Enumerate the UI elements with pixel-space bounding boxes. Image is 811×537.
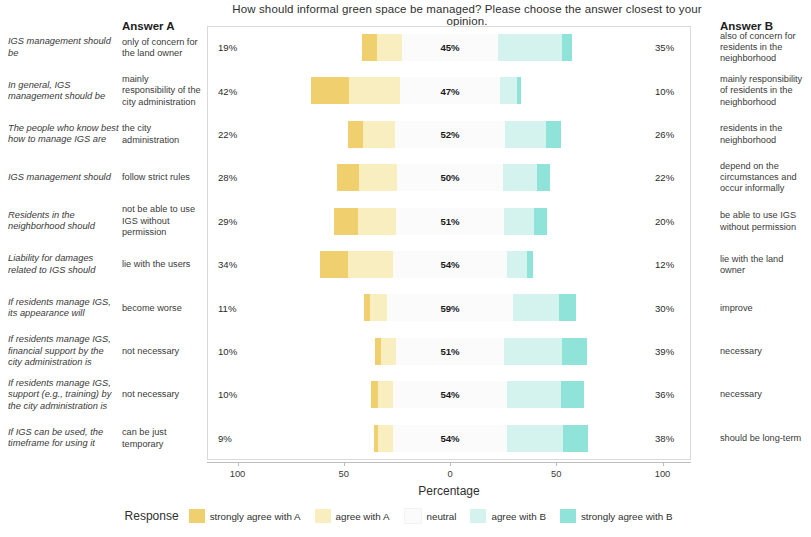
row-percent-neutral: 54% xyxy=(430,389,470,400)
chart-row: In general, IGS management should bemain… xyxy=(0,69,811,112)
legend-swatch-icon xyxy=(470,509,486,523)
row-answer-b: should be long-term xyxy=(720,433,810,444)
x-axis-tick-label: 0 xyxy=(430,468,470,479)
legend-item[interactable]: strongly agree with A xyxy=(189,509,301,523)
row-answer-a: lie with the users xyxy=(122,259,204,270)
legend-label: agree with A xyxy=(336,511,390,522)
row-percent-b: 35% xyxy=(655,42,691,53)
row-percent-a: 19% xyxy=(218,42,254,53)
chart-row: The people who know best how to manage I… xyxy=(0,113,811,156)
legend-swatch-icon xyxy=(315,509,331,523)
seg-agree-a xyxy=(381,338,396,365)
x-axis-line xyxy=(207,462,691,463)
seg-agree-a xyxy=(377,34,403,61)
row-answer-a: only of concern for the land owner xyxy=(122,37,204,59)
seg-agree-b xyxy=(500,77,517,104)
x-axis-tick-mark xyxy=(556,462,557,466)
row-percent-neutral: 54% xyxy=(430,259,470,270)
row-answer-b: residents in the neighborhood xyxy=(720,123,810,145)
seg-strongly-agree-a xyxy=(337,164,358,191)
row-percent-b: 38% xyxy=(655,433,691,444)
row-answer-b: mainly responsibility of residents in th… xyxy=(720,74,810,108)
seg-strongly-agree-b xyxy=(537,164,550,191)
row-answer-a: the city administration xyxy=(122,123,204,145)
chart-row: IGS management shouldfollow strict rules… xyxy=(0,156,811,199)
seg-strongly-agree-b xyxy=(561,381,584,408)
legend-items: strongly agree with Aagree with Aneutral… xyxy=(189,508,687,524)
chart-row: If IGS can be used, the timeframe for us… xyxy=(0,417,811,460)
row-percent-a: 29% xyxy=(218,216,254,227)
seg-strongly-agree-b xyxy=(562,338,588,365)
seg-agree-b xyxy=(513,294,560,321)
row-answer-b: be able to use IGS without permission xyxy=(720,210,810,232)
page-title: How should informal green space be manag… xyxy=(222,3,712,27)
row-percent-a: 10% xyxy=(218,346,254,357)
row-percent-b: 12% xyxy=(655,259,691,270)
seg-agree-b xyxy=(507,381,560,408)
row-percent-neutral: 51% xyxy=(430,346,470,357)
row-percent-a: 10% xyxy=(218,389,254,400)
row-percent-neutral: 52% xyxy=(430,129,470,140)
row-percent-neutral: 50% xyxy=(430,172,470,183)
legend-item[interactable]: neutral xyxy=(404,508,457,524)
row-answer-a: not be able to use IGS without permissio… xyxy=(122,204,204,238)
row-percent-a: 11% xyxy=(218,303,254,314)
row-statement: The people who know best how to manage I… xyxy=(8,123,120,146)
row-statement: If residents manage IGS, financial suppo… xyxy=(8,334,120,368)
row-answer-b: necessary xyxy=(720,389,810,400)
seg-strongly-agree-a xyxy=(334,208,357,235)
legend-item[interactable]: agree with A xyxy=(315,509,390,523)
row-answer-b: lie with the land owner xyxy=(720,254,810,276)
seg-agree-a xyxy=(358,208,396,235)
row-answer-a: follow strict rules xyxy=(122,172,204,183)
seg-strongly-agree-b xyxy=(562,34,573,61)
row-statement: Liability for damages related to IGS sho… xyxy=(8,253,120,276)
row-percent-neutral: 47% xyxy=(430,86,470,97)
x-axis-tick-mark xyxy=(450,462,451,466)
row-percent-b: 39% xyxy=(655,346,691,357)
row-statement: IGS management should xyxy=(8,172,120,183)
row-answer-a: can be just temporary xyxy=(122,427,204,449)
legend-title: Response xyxy=(125,509,179,523)
row-percent-b: 22% xyxy=(655,172,691,183)
row-percent-b: 26% xyxy=(655,129,691,140)
row-statement: If residents manage IGS, its appearance … xyxy=(8,297,120,320)
row-percent-b: 36% xyxy=(655,389,691,400)
x-axis-tick-label: 50 xyxy=(324,468,364,479)
seg-strongly-agree-a xyxy=(348,121,363,148)
seg-agree-b xyxy=(505,121,545,148)
legend-label: strongly agree with B xyxy=(581,511,672,522)
seg-strongly-agree-b xyxy=(517,77,521,104)
seg-agree-b xyxy=(507,425,562,452)
chart-row: Liability for damages related to IGS sho… xyxy=(0,243,811,286)
row-statement: If residents manage IGS, support (e.g., … xyxy=(8,378,120,412)
chart-row: If residents manage IGS, its appearance … xyxy=(0,286,811,329)
seg-agree-a xyxy=(370,294,387,321)
row-percent-neutral: 59% xyxy=(430,303,470,314)
legend-label: strongly agree with A xyxy=(210,511,301,522)
seg-agree-a xyxy=(349,77,400,104)
seg-agree-b xyxy=(498,34,562,61)
row-answer-b: improve xyxy=(720,303,810,314)
row-statement: In general, IGS management should be xyxy=(8,80,120,103)
row-percent-a: 34% xyxy=(218,259,254,270)
row-percent-b: 30% xyxy=(655,303,691,314)
chart-legend: Response strongly agree with Aagree with… xyxy=(0,508,811,524)
seg-strongly-agree-b xyxy=(546,121,561,148)
legend-swatch-icon xyxy=(560,509,576,523)
legend-item[interactable]: strongly agree with B xyxy=(560,509,672,523)
seg-agree-b xyxy=(503,164,537,191)
row-statement: Residents in the neighborhood should xyxy=(8,210,120,233)
seg-agree-b xyxy=(504,208,534,235)
row-answer-b: also of concern for residents in the nei… xyxy=(720,31,810,65)
legend-item[interactable]: agree with B xyxy=(470,509,545,523)
row-percent-b: 10% xyxy=(655,86,691,97)
row-statement: IGS management should be xyxy=(8,36,120,59)
row-percent-a: 9% xyxy=(218,433,254,444)
chart-row: Residents in the neighborhood shouldnot … xyxy=(0,200,811,243)
x-axis-tick-label: 50 xyxy=(536,468,576,479)
seg-strongly-agree-b xyxy=(534,208,547,235)
x-axis-tick-mark xyxy=(344,462,345,466)
legend-swatch-icon xyxy=(189,509,205,523)
row-percent-a: 42% xyxy=(218,86,254,97)
